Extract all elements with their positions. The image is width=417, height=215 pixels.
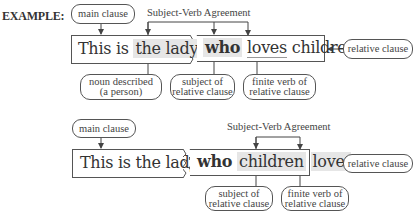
noun-described-tag: noun described (a person) <box>80 74 162 100</box>
main-clause-tag-2: main clause <box>72 119 136 138</box>
annotation-line: relative clause <box>285 199 345 209</box>
annotation-line: relative clause <box>209 199 269 209</box>
connector-lines <box>0 0 417 215</box>
annotation-line: subject of <box>218 189 259 199</box>
annotation-line: finite verb of <box>288 189 343 199</box>
relative-clause-tag-2: relative clause <box>343 154 413 173</box>
relative-clause-tag-text: relative clause <box>348 159 408 169</box>
subject-verb-agreement-label: Subject-Verb Agreement <box>147 7 251 18</box>
relative-clause-tag: relative clause <box>343 39 413 59</box>
relative-clause-tag-text: relative clause <box>348 44 408 54</box>
annotation-line: relative clause <box>249 87 309 97</box>
finite-verb-tag-2: finite verb of relative clause <box>281 186 349 211</box>
relative-clause-sentence: who loves children. <box>203 38 361 57</box>
noun-described-highlight: the lady <box>133 39 200 58</box>
main-clause-plain-text: This is <box>78 39 129 58</box>
relative-verb: loves <box>247 38 287 58</box>
subject-of-relative-clause-tag-2: subject of relative clause <box>205 186 273 211</box>
main-clause-tag: main clause <box>71 4 135 24</box>
relative-pronoun: who <box>197 152 232 171</box>
relative-subject-highlight: children <box>237 152 306 171</box>
relative-clause-sentence-2: who children love. <box>197 152 351 171</box>
main-clause-tag-text: main clause <box>79 124 129 134</box>
finite-verb-tag: finite verb of relative clause <box>243 74 316 100</box>
annotation-line: relative clause <box>172 87 232 97</box>
main-clause-tag-text: main clause <box>78 9 128 19</box>
main-clause-plain-text: This is the lady <box>80 153 198 172</box>
relative-pronoun-highlight: who <box>203 38 242 57</box>
annotation-line: (a person) <box>100 87 142 97</box>
subject-verb-agreement-label-2: Subject-Verb Agreement <box>227 121 331 132</box>
subject-of-relative-clause-tag: subject of relative clause <box>170 74 235 100</box>
main-clause-sentence-2: This is the lady <box>80 153 198 172</box>
main-clause-sentence: This is the lady <box>78 39 200 58</box>
